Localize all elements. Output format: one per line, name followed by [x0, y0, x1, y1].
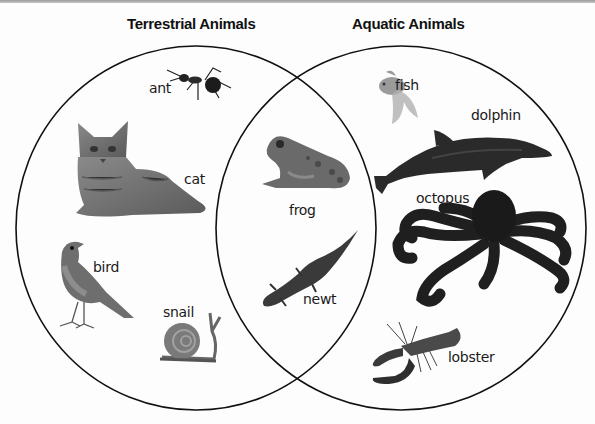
frog-label: frog — [289, 202, 316, 218]
cat-icon — [72, 117, 212, 219]
snail-label: snail — [163, 304, 194, 320]
dolphin-icon — [372, 114, 554, 196]
ant-label: ant — [149, 80, 171, 96]
octopus-icon — [384, 188, 584, 314]
fish-label: fish — [395, 77, 419, 93]
ant-icon — [165, 64, 237, 109]
cat-label: cat — [184, 171, 205, 187]
bird-label: bird — [93, 259, 119, 275]
octopus-label: octopus — [416, 190, 469, 206]
newt-label: newt — [303, 291, 336, 307]
frog-icon — [258, 132, 354, 194]
bird-icon — [50, 236, 138, 332]
lobster-label: lobster — [448, 349, 494, 365]
dolphin-label: dolphin — [471, 107, 521, 123]
